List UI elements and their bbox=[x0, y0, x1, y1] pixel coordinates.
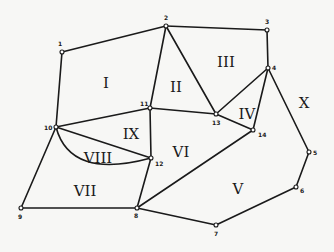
node-5 bbox=[307, 150, 311, 154]
node-label-2: 2 bbox=[164, 14, 168, 21]
region-label-III: III bbox=[217, 53, 235, 71]
edge-2-11 bbox=[150, 26, 166, 108]
node-label-1: 1 bbox=[58, 40, 62, 47]
node-label-9: 9 bbox=[18, 213, 22, 220]
node-9 bbox=[19, 206, 23, 210]
node-1 bbox=[60, 50, 64, 54]
region-label-X: X bbox=[299, 94, 310, 112]
node-6 bbox=[294, 185, 298, 189]
edge-1-2 bbox=[62, 26, 166, 52]
graph-edges bbox=[21, 26, 309, 225]
node-label-6: 6 bbox=[300, 187, 304, 194]
edge-6-7 bbox=[216, 187, 296, 225]
node-label-13: 13 bbox=[212, 119, 220, 126]
node-7 bbox=[214, 223, 218, 227]
edge-11-12 bbox=[150, 108, 151, 158]
node-12 bbox=[149, 156, 153, 160]
node-14 bbox=[251, 128, 255, 132]
node-4 bbox=[266, 66, 270, 70]
node-label-8: 8 bbox=[134, 212, 138, 219]
edge-2-3 bbox=[166, 26, 267, 30]
region-label-VI: VI bbox=[172, 143, 190, 161]
node-label-12: 12 bbox=[155, 160, 163, 167]
edge-3-4 bbox=[267, 30, 268, 68]
edge-5-6 bbox=[296, 152, 309, 187]
node-label-11: 11 bbox=[140, 100, 148, 107]
node-label-3: 3 bbox=[265, 18, 269, 25]
edge-11-13 bbox=[150, 108, 216, 114]
node-label-7: 7 bbox=[214, 230, 218, 237]
region-label-VIII: VIII bbox=[83, 149, 113, 167]
node-13 bbox=[214, 112, 218, 116]
node-label-14: 14 bbox=[258, 131, 266, 138]
edge-1-10 bbox=[56, 52, 62, 127]
node-10 bbox=[54, 125, 58, 129]
region-labels: IIIIIIIVVVIVIIVIIIIXX bbox=[73, 53, 310, 200]
node-label-5: 5 bbox=[313, 149, 317, 156]
node-8 bbox=[135, 206, 139, 210]
region-label-I: I bbox=[103, 74, 109, 92]
region-label-V: V bbox=[232, 180, 245, 198]
node-2 bbox=[164, 24, 168, 28]
region-label-II: II bbox=[170, 78, 182, 96]
edge-7-8 bbox=[137, 208, 216, 225]
region-label-VII: VII bbox=[73, 182, 97, 200]
edge-2-13 bbox=[166, 26, 216, 114]
node-label-4: 4 bbox=[272, 64, 276, 71]
node-11 bbox=[148, 106, 152, 110]
region-label-IV: IV bbox=[239, 105, 257, 123]
edge-9-10 bbox=[21, 127, 56, 208]
node-3 bbox=[265, 28, 269, 32]
node-label-10: 10 bbox=[44, 124, 52, 131]
region-label-IX: IX bbox=[123, 125, 140, 143]
planar-graph-diagram: 1234567891011121314 IIIIIIIVVVIVIIVIIIIX… bbox=[0, 0, 334, 252]
